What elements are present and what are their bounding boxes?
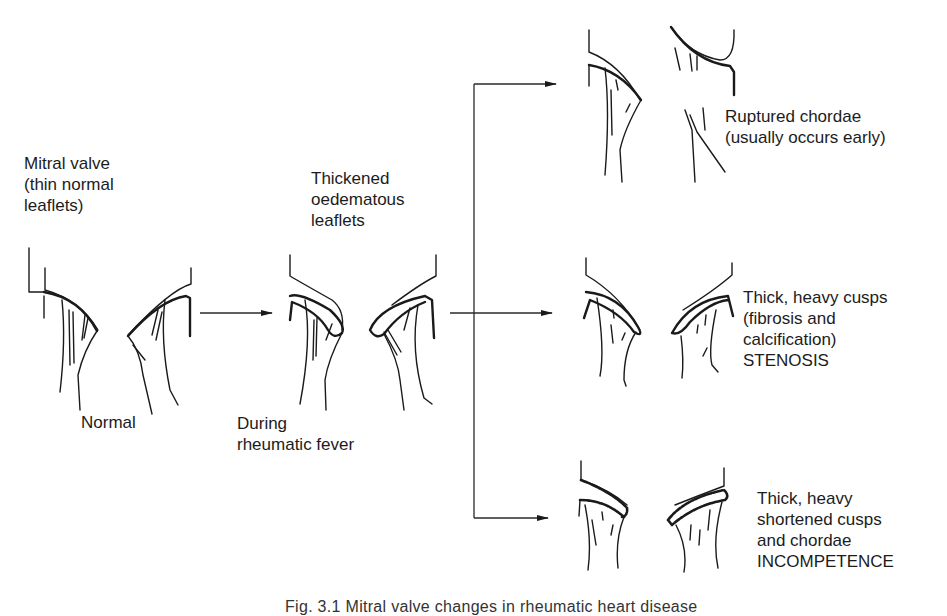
label-line: Normal <box>81 412 136 433</box>
label-line: Mitral valve <box>24 153 114 174</box>
label-line: Thickened <box>311 168 405 189</box>
figure-caption: Fig. 3.1 Mitral valve changes in rheumat… <box>285 598 698 616</box>
stenosis-label: Thick, heavy cusps (fibrosis and calcifi… <box>743 287 888 371</box>
label-line: calcification) <box>743 329 888 350</box>
label-line: leaflets <box>311 210 405 231</box>
branch-arrows <box>474 84 556 518</box>
ruptured-chordae-label: Ruptured chordae (usually occurs early) <box>725 106 886 148</box>
rheumatic-bottom-label: During rheumatic fever <box>237 413 354 455</box>
label-line: (usually occurs early) <box>725 127 886 148</box>
rheumatic-top-label: Thickened oedematous leaflets <box>311 168 405 231</box>
rheumatic-valve-illustration <box>290 255 552 410</box>
normal-valve-illustration <box>29 248 272 414</box>
label-line: and chordae <box>757 530 894 551</box>
label-line: Ruptured chordae <box>725 106 886 127</box>
label-line: shortened cusps <box>757 509 894 530</box>
incompetence-illustration <box>579 461 727 572</box>
label-line: Thick, heavy cusps <box>743 287 888 308</box>
label-line: oedematous <box>311 189 405 210</box>
label-line: During <box>237 413 354 434</box>
incompetence-label: Thick, heavy shortened cusps and chordae… <box>757 488 894 572</box>
label-line: (thin normal <box>24 174 114 195</box>
label-line: STENOSIS <box>743 350 888 371</box>
label-line: INCOMPETENCE <box>757 551 894 572</box>
normal-bottom-label: Normal <box>81 412 136 433</box>
normal-top-label: Mitral valve (thin normal leaflets) <box>24 153 114 216</box>
ruptured-chordae-illustration <box>589 27 734 182</box>
label-line: Thick, heavy <box>757 488 894 509</box>
stenosis-illustration <box>584 258 733 386</box>
label-line: (fibrosis and <box>743 308 888 329</box>
label-line: leaflets) <box>24 195 114 216</box>
label-line: rheumatic fever <box>237 434 354 455</box>
